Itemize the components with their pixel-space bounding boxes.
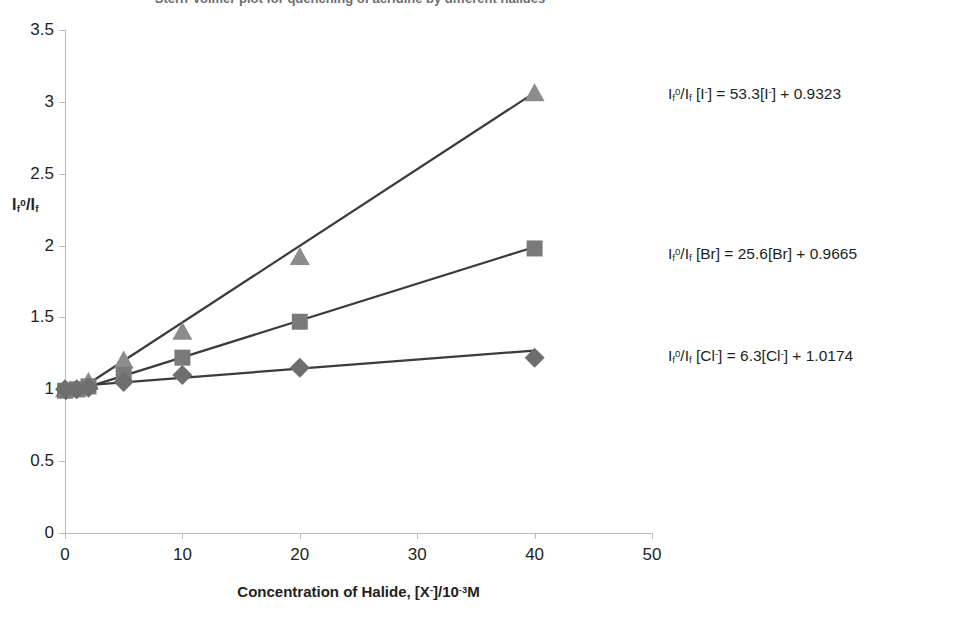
- data-point-marker: [172, 322, 192, 340]
- data-point-marker: [290, 358, 310, 378]
- equation-label: If0/If [Cl-] = 6.3[Cl-] + 1.0174: [668, 348, 853, 365]
- data-point-marker: [525, 83, 545, 101]
- equation-label: If0/If [I-] = 53.3[I-] + 0.9323: [668, 86, 841, 103]
- stern-volmer-chart: Stern-Volmer plot for quenching of acrid…: [0, 0, 963, 626]
- data-point-marker: [527, 240, 543, 256]
- data-point-marker: [114, 351, 134, 369]
- equation-label: If0/If [Br] = 25.6[Br] + 0.9665: [668, 246, 857, 263]
- data-point-marker: [174, 350, 190, 366]
- trendline: [65, 93, 535, 399]
- data-point-marker: [172, 365, 192, 385]
- data-point-marker: [292, 314, 308, 330]
